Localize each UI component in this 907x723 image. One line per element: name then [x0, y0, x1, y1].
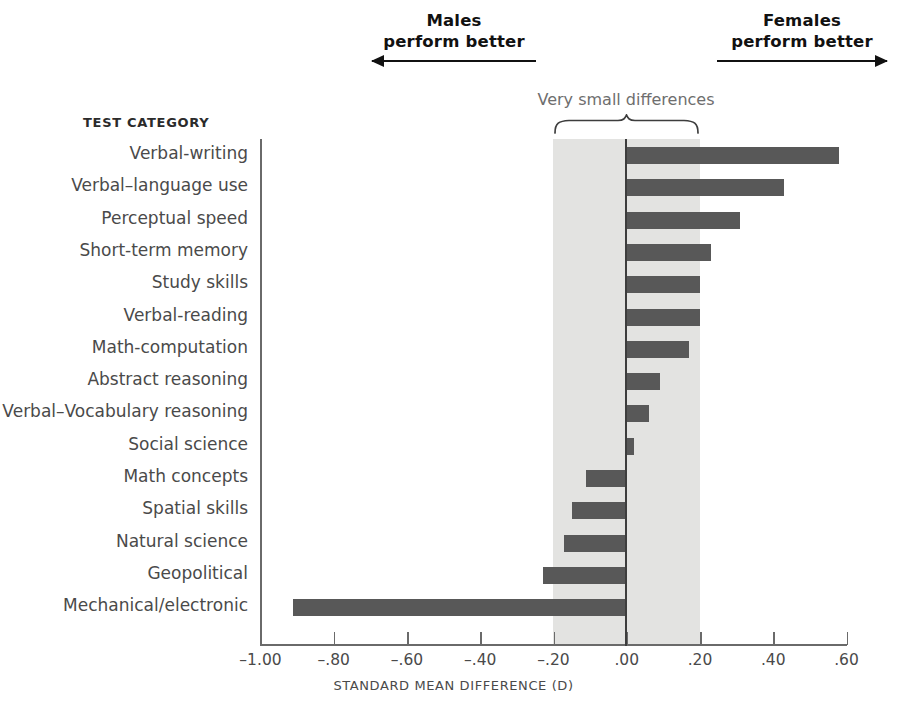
category-label: Short-term memory — [0, 240, 248, 260]
bar — [627, 438, 634, 455]
category-label: Social science — [0, 434, 248, 454]
x-tick-label: .00 — [597, 651, 657, 669]
category-label: Spatial skills — [0, 498, 248, 518]
category-label: Geopolitical — [0, 563, 248, 583]
bar — [627, 373, 660, 390]
figure-gender-differences-chart: Males perform better Females perform bet… — [0, 0, 907, 723]
bar — [627, 341, 689, 358]
bar — [586, 470, 626, 487]
bar — [627, 212, 741, 229]
x-tick — [261, 632, 263, 645]
category-label: Perceptual speed — [0, 208, 248, 228]
bar — [293, 599, 626, 616]
category-label: Math concepts — [0, 466, 248, 486]
x-tick-label: .20 — [670, 651, 730, 669]
x-tick-label: –.40 — [450, 651, 510, 669]
x-tick — [773, 632, 775, 645]
x-tick-label: –.20 — [524, 651, 584, 669]
bar — [627, 309, 700, 326]
y-axis-line — [260, 139, 262, 646]
category-label: Mechanical/electronic — [0, 595, 248, 615]
bar — [572, 502, 627, 519]
x-tick — [847, 632, 849, 645]
plot-area: –1.00–.80–.60–.40–.20.00.20.40.60 Verbal… — [0, 0, 907, 723]
category-label: Verbal-writing — [0, 143, 248, 163]
x-tick — [700, 632, 702, 645]
x-axis-title: STANDARD MEAN DIFFERENCE (D) — [0, 678, 907, 693]
x-tick-label: –.60 — [377, 651, 437, 669]
zero-reference-line — [625, 139, 627, 646]
bar — [543, 567, 627, 584]
bar — [627, 405, 649, 422]
x-tick — [627, 632, 629, 645]
category-label: Verbal–language use — [0, 175, 248, 195]
bar — [627, 276, 700, 293]
bar — [627, 147, 839, 164]
x-tick-label: –1.00 — [231, 651, 291, 669]
bar — [627, 244, 711, 261]
x-tick — [407, 632, 409, 645]
x-tick-label: –.80 — [304, 651, 364, 669]
x-tick — [554, 632, 556, 645]
x-tick-label: .40 — [743, 651, 803, 669]
category-label: Math-computation — [0, 337, 248, 357]
test-category-header: TEST CATEGORY — [83, 115, 209, 130]
category-label: Abstract reasoning — [0, 369, 248, 389]
category-label: Verbal-reading — [0, 305, 248, 325]
category-label: Verbal–Vocabulary reasoning — [0, 401, 248, 421]
category-label: Natural science — [0, 531, 248, 551]
bar — [564, 535, 626, 552]
x-tick — [334, 632, 336, 645]
bar — [627, 179, 784, 196]
x-tick — [480, 632, 482, 645]
x-tick-label: .60 — [817, 651, 877, 669]
category-label: Study skills — [0, 272, 248, 292]
